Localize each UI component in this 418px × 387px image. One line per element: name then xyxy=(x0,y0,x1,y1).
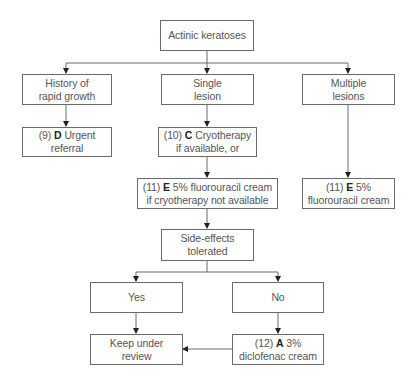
node-label-line2: fluorouracil cream xyxy=(308,194,390,207)
node-label-line2: referral xyxy=(51,142,83,155)
node-label: Actinic keratoses xyxy=(168,29,246,42)
node-cryotherapy: (10) C Cryotherapy if available, or xyxy=(158,127,257,157)
node-label: No xyxy=(271,291,284,304)
node-label-line1: (12) A 3% xyxy=(255,337,301,350)
evidence-grade: C xyxy=(185,129,192,141)
node-diclofenac: (12) A 3% diclofenac cream xyxy=(232,334,324,365)
node-fluorouracil-multiple: (11) E 5% fluorouracil cream xyxy=(302,178,395,209)
node-label-line2: if available, or xyxy=(176,142,239,155)
node-label-line2: tolerated xyxy=(188,245,228,258)
evidence-grade: D xyxy=(54,129,61,141)
node-single-lesion: Single lesion xyxy=(161,74,254,105)
node-text: 5% fluorouracil cream xyxy=(173,181,272,193)
node-text: Urgent xyxy=(64,129,95,141)
evidence-grade: A xyxy=(276,337,283,349)
node-label-line1: (9) D Urgent xyxy=(39,129,96,142)
recommendation-number: (9) xyxy=(39,129,52,141)
node-label-line2: lesion xyxy=(194,90,221,103)
node-label-line2: lesions xyxy=(333,90,365,103)
recommendation-number: (12) xyxy=(255,337,273,349)
node-actinic-keratoses: Actinic keratoses xyxy=(160,20,254,51)
node-text: 3% xyxy=(286,337,301,349)
recommendation-number: (10) xyxy=(164,129,182,141)
node-label-line1: Single xyxy=(193,77,222,90)
node-label-line1: (10) C Cryotherapy xyxy=(164,129,252,142)
node-label-line1: Multiple xyxy=(331,77,366,90)
node-label-line1: (11) E 5% fluorouracil cream xyxy=(143,181,273,194)
node-fluorouracil-single: (11) E 5% fluorouracil cream if cryother… xyxy=(137,178,278,209)
evidence-grade: E xyxy=(346,181,353,193)
node-yes: Yes xyxy=(90,282,183,313)
node-urgent-referral: (9) D Urgent referral xyxy=(22,127,112,157)
node-label-line2: diclofenac cream xyxy=(239,350,317,363)
node-multiple-lesions: Multiple lesions xyxy=(302,74,395,105)
recommendation-number: (11) xyxy=(143,181,161,193)
node-label-line2: review xyxy=(122,350,152,363)
node-history-rapid-growth: History of rapid growth xyxy=(22,74,112,105)
node-side-effects-tolerated: Side-effects tolerated xyxy=(161,229,254,261)
node-label-line2: if cryotherapy not available xyxy=(146,194,268,207)
node-no: No xyxy=(232,282,324,313)
node-label-line2: rapid growth xyxy=(39,90,96,103)
node-label: Yes xyxy=(128,291,145,304)
node-label-line1: Keep under xyxy=(110,337,163,350)
node-text: Cryotherapy xyxy=(195,129,251,141)
node-label-line1: History of xyxy=(45,77,88,90)
recommendation-number: (11) xyxy=(326,181,344,193)
node-label-line1: (11) E 5% xyxy=(326,181,371,194)
node-text: 5% xyxy=(356,181,371,193)
node-keep-under-review: Keep under review xyxy=(90,334,183,365)
evidence-grade: E xyxy=(163,181,170,193)
node-label-line1: Side-effects xyxy=(180,232,234,245)
